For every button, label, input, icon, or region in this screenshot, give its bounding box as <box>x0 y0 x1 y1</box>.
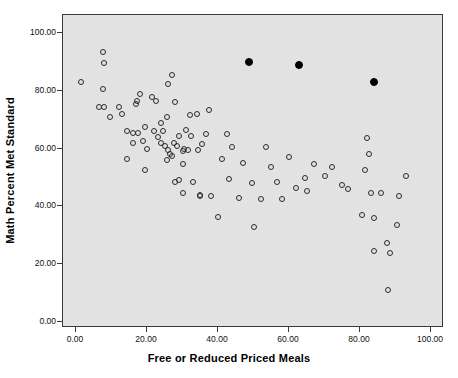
data-point <box>194 111 200 117</box>
data-point <box>176 177 182 183</box>
data-point <box>183 127 189 133</box>
data-point <box>169 72 175 78</box>
data-point <box>226 176 232 182</box>
data-point <box>100 86 106 92</box>
data-point <box>240 160 246 166</box>
data-point <box>215 214 221 220</box>
data-point <box>387 250 393 256</box>
data-point <box>164 114 170 120</box>
data-point <box>304 188 310 194</box>
data-point <box>249 180 255 186</box>
data-point <box>394 222 400 228</box>
x-tick-mark <box>75 327 76 332</box>
data-point <box>197 192 203 198</box>
data-point <box>258 196 264 202</box>
data-point <box>187 112 193 118</box>
data-point <box>153 98 159 104</box>
data-point <box>224 131 230 137</box>
data-point <box>169 153 175 159</box>
x-tick-mark <box>217 327 218 332</box>
data-point <box>101 104 107 110</box>
x-tick-label: 60.00 <box>277 334 298 344</box>
y-axis-title: Math Percent Met Standard <box>2 14 18 327</box>
data-point-highlighted <box>245 58 253 66</box>
data-point <box>236 195 242 201</box>
data-point <box>142 124 148 130</box>
data-point <box>176 133 182 139</box>
data-point <box>219 156 225 162</box>
data-point <box>368 190 374 196</box>
data-point <box>142 167 148 173</box>
data-point <box>286 154 292 160</box>
data-point <box>160 128 166 134</box>
data-point <box>274 179 280 185</box>
x-tick-label: 20.00 <box>135 334 156 344</box>
data-point <box>190 179 196 185</box>
data-point <box>293 185 299 191</box>
data-point <box>135 130 141 136</box>
x-axis-title-text: Free or Reduced Priced Meals <box>148 352 311 364</box>
data-point <box>311 161 317 167</box>
data-point <box>172 99 178 105</box>
data-point <box>164 157 170 163</box>
data-point <box>403 173 409 179</box>
data-point <box>185 147 191 153</box>
x-tick-label: 40.00 <box>206 334 227 344</box>
data-point <box>322 173 328 179</box>
data-point <box>100 49 106 55</box>
data-point <box>180 190 186 196</box>
data-point <box>362 167 368 173</box>
x-tick-mark <box>146 327 147 332</box>
data-point <box>107 114 113 120</box>
data-point-highlighted <box>370 78 378 86</box>
data-point <box>378 190 384 196</box>
data-point <box>366 151 372 157</box>
data-point <box>203 131 209 137</box>
x-tick-label: 0.00 <box>67 334 84 344</box>
data-point <box>268 164 274 170</box>
data-point <box>396 193 402 199</box>
data-point <box>371 215 377 221</box>
data-points-layer <box>63 15 442 326</box>
data-point <box>384 240 390 246</box>
data-point <box>229 144 235 150</box>
data-point <box>329 164 335 170</box>
plot-area-frame <box>62 14 443 327</box>
data-point <box>137 91 143 97</box>
data-point <box>371 248 377 254</box>
data-point <box>116 104 122 110</box>
data-point-highlighted <box>295 61 303 69</box>
data-point <box>101 60 107 66</box>
data-point <box>345 186 351 192</box>
data-point <box>180 161 186 167</box>
data-point <box>158 120 164 126</box>
data-point <box>364 135 370 141</box>
data-point <box>206 107 212 113</box>
y-axis-title-text: Math Percent Met Standard <box>4 97 16 244</box>
data-point <box>279 196 285 202</box>
data-point <box>130 140 136 146</box>
data-point <box>188 133 194 139</box>
data-point <box>263 144 269 150</box>
data-point <box>174 143 180 149</box>
data-point <box>359 212 365 218</box>
data-point <box>165 81 171 87</box>
data-point <box>119 111 125 117</box>
x-tick-mark <box>288 327 289 332</box>
x-tick-mark <box>430 327 431 332</box>
data-point <box>124 156 130 162</box>
data-point <box>195 147 201 153</box>
data-point <box>199 141 205 147</box>
data-point <box>208 193 214 199</box>
scatter-plot-figure: 0.0020.0040.0060.0080.00100.00 0.0020.00… <box>0 0 458 378</box>
data-point <box>302 175 308 181</box>
data-point <box>140 138 146 144</box>
data-point <box>78 79 84 85</box>
data-point <box>385 287 391 293</box>
x-tick-label: 80.00 <box>348 334 369 344</box>
x-axis-title: Free or Reduced Priced Meals <box>0 352 458 364</box>
data-point <box>134 98 140 104</box>
data-point <box>251 224 257 230</box>
data-point <box>144 146 150 152</box>
x-tick-label: 100.00 <box>417 334 443 344</box>
